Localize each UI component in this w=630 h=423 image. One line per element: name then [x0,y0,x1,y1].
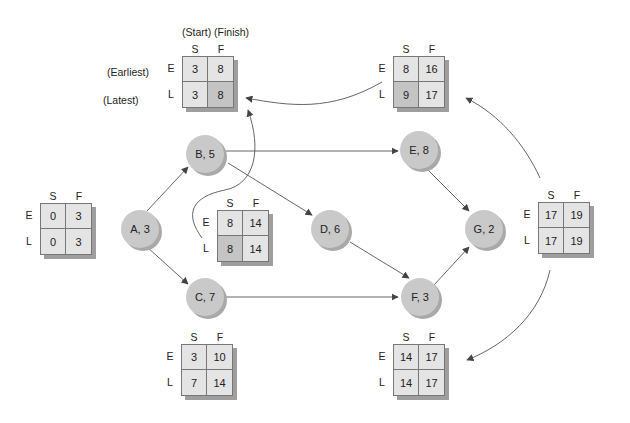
latest-finish: 14 [243,236,268,261]
row-label-latest: L [376,88,388,100]
earliest-finish: 3 [66,204,91,229]
earliest-start: 17 [539,203,564,228]
node-a[interactable]: A, 3 [121,210,159,248]
node-g[interactable]: G, 2 [465,210,503,248]
pert-diagram: (Start) (Finish) (Earliest) (Latest) A, … [0,0,630,423]
earliest-start: 0 [41,204,66,229]
edge-d-f [350,242,409,278]
callout-e-to-b [246,82,382,105]
col-label-finish: F [564,189,590,201]
legend-earliest: (Earliest) [107,66,149,78]
col-label-finish: F [419,43,445,55]
latest-start: 14 [394,370,419,395]
node-f[interactable]: F, 3 [401,278,439,316]
row-label-earliest: E [376,62,388,74]
col-label-start: S [182,43,208,55]
earliest-finish: 14 [243,211,268,236]
col-label-start: S [181,331,207,343]
latest-start: 3 [183,82,208,107]
row-label-earliest: E [165,62,177,74]
earliest-start: 8 [394,57,419,82]
earliest-start: 8 [218,211,243,236]
earliest-finish: 10 [207,345,232,370]
latest-start: 8 [218,236,243,261]
latest-start: 0 [41,229,66,254]
callout-g-to-f [467,270,550,360]
latest-finish: 8 [208,82,233,107]
earliest-finish: 19 [564,203,589,228]
node-b[interactable]: B, 5 [186,135,224,173]
legend-latest: (Latest) [103,94,139,106]
col-label-start: S [217,197,243,209]
earliest-finish: 8 [208,57,233,82]
col-label-start: S [393,43,419,55]
node-e[interactable]: E, 8 [400,131,438,169]
row-label-latest: L [200,242,212,254]
row-label-latest: L [23,235,35,247]
col-label-finish: F [243,197,269,209]
row-label-latest: L [165,88,177,100]
latest-finish: 3 [66,229,91,254]
callout-g-to-e [466,98,540,178]
edge-a-b [147,167,188,211]
earliest-finish: 16 [419,57,444,82]
earliest-finish: 17 [419,345,444,370]
edges-layer [0,0,630,423]
col-label-start: S [40,190,66,202]
node-d[interactable]: D, 6 [311,210,349,248]
edge-a-c [147,247,188,284]
latest-start: 7 [182,370,207,395]
col-label-finish: F [66,190,92,202]
row-label-earliest: E [521,208,533,220]
row-label-latest: L [521,234,533,246]
latest-finish: 19 [564,228,589,253]
edge-f-g [434,247,469,285]
earliest-start: 3 [182,345,207,370]
col-label-finish: F [419,331,445,343]
latest-start: 9 [394,82,419,107]
row-label-latest: L [164,376,176,388]
col-label-finish: F [208,43,234,55]
row-label-latest: L [376,376,388,388]
latest-finish: 17 [419,370,444,395]
col-label-start: S [538,189,564,201]
earliest-start: 14 [394,345,419,370]
latest-finish: 17 [419,82,444,107]
latest-start: 17 [539,228,564,253]
row-label-earliest: E [23,209,35,221]
row-label-earliest: E [200,216,212,228]
edge-e-g [428,170,469,211]
col-label-start: S [393,331,419,343]
node-c[interactable]: C, 7 [186,278,224,316]
row-label-earliest: E [164,350,176,362]
earliest-start: 3 [183,57,208,82]
legend-start-finish: (Start) (Finish) [182,26,249,38]
col-label-finish: F [207,331,233,343]
row-label-earliest: E [376,350,388,362]
latest-finish: 14 [207,370,232,395]
